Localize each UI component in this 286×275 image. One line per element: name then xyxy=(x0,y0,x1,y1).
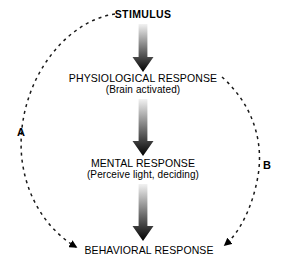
diagram-canvas: STIMULUS PHYSIOLOGICAL RESPONSE (Brain a… xyxy=(0,0,286,275)
node-stimulus-title: STIMULUS xyxy=(0,9,286,20)
node-physiological-response-subtitle: (Brain activated) xyxy=(0,85,286,96)
arrow-mental-to-behavioral xyxy=(132,184,154,241)
arrow-stimulus-to-physiological xyxy=(132,24,154,72)
node-physiological-response: PHYSIOLOGICAL RESPONSE (Brain activated) xyxy=(0,73,286,96)
feedback-loop-b-label: B xyxy=(263,160,271,171)
node-behavioral-response: BEHAVIORAL RESPONSE xyxy=(6,245,286,256)
node-behavioral-response-title: BEHAVIORAL RESPONSE xyxy=(6,245,286,256)
node-mental-response: MENTAL RESPONSE (Perceive light, decidin… xyxy=(0,158,286,181)
node-mental-response-subtitle: (Perceive light, deciding) xyxy=(0,170,286,181)
node-mental-response-title: MENTAL RESPONSE xyxy=(0,158,286,169)
feedback-loop-a-label: A xyxy=(17,127,25,138)
node-physiological-response-title: PHYSIOLOGICAL RESPONSE xyxy=(0,73,286,84)
node-stimulus: STIMULUS xyxy=(0,9,286,20)
arrow-physiological-to-mental xyxy=(132,99,154,156)
feedback-loop-a-path xyxy=(21,14,115,247)
